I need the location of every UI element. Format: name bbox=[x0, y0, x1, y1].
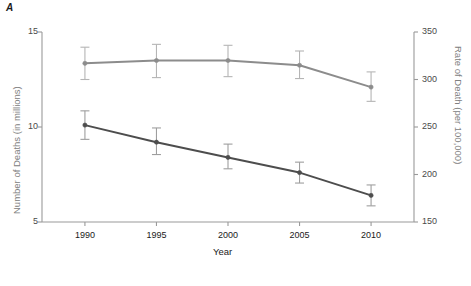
data-point-marker bbox=[297, 63, 301, 67]
x-axis-tick-label: 2000 bbox=[208, 230, 248, 240]
x-axis-tick-label: 1995 bbox=[136, 230, 176, 240]
data-point-marker bbox=[154, 58, 158, 62]
right-axis-tick-label: 300 bbox=[422, 74, 450, 84]
data-point-marker bbox=[297, 171, 301, 175]
x-axis-tick-label: 2005 bbox=[280, 230, 320, 240]
x-axis-tick-label: 1990 bbox=[65, 230, 105, 240]
data-point-marker bbox=[226, 58, 230, 62]
data-point-marker bbox=[369, 85, 373, 89]
x-axis-title: Year bbox=[213, 246, 232, 257]
chart-figure: 5101515020025030035019901995200020052010… bbox=[0, 0, 471, 286]
left-axis-tick-label: 15 bbox=[14, 26, 38, 36]
x-axis-tick-label: 2010 bbox=[351, 230, 391, 240]
right-axis-tick-label: 200 bbox=[422, 169, 450, 179]
data-point-marker bbox=[83, 123, 87, 127]
right-axis-title: Rate of Death (per 100,000) bbox=[453, 46, 464, 164]
right-axis-tick-label: 250 bbox=[422, 121, 450, 131]
right-axis-tick-label: 350 bbox=[422, 26, 450, 36]
data-point-marker bbox=[369, 193, 373, 197]
data-point-marker bbox=[154, 140, 158, 144]
right-axis-tick-label: 150 bbox=[422, 216, 450, 226]
data-point-marker bbox=[226, 155, 230, 159]
chart-canvas bbox=[0, 0, 471, 286]
data-point-marker bbox=[83, 61, 87, 65]
left-axis-tick-label: 5 bbox=[14, 216, 38, 226]
left-axis-title: Number of Deaths (in millions) bbox=[11, 86, 22, 214]
